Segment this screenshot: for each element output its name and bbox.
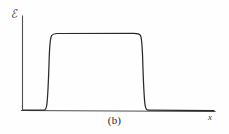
figure-container: ℰ x (b) (0, 0, 229, 134)
y-axis-label: ℰ (9, 9, 17, 21)
pulse-curve (23, 33, 214, 110)
figure-caption: (b) (0, 114, 229, 126)
